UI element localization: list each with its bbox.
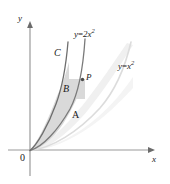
curve-c-label: C: [54, 48, 61, 58]
parabola-regions-figure: y x 0 C y=2x2 y=x2 B A P: [0, 0, 170, 184]
origin-label: 0: [20, 153, 25, 163]
curve-2x-squared-label-coef: 2x: [83, 29, 92, 39]
point-p-label: P: [86, 73, 92, 82]
y-axis-label: y: [18, 14, 22, 23]
y-axis-arrow-icon: [27, 21, 33, 28]
curve-2x-squared-label-exponent: 2: [92, 27, 95, 34]
point-p-marker: [81, 78, 84, 81]
x-axis-arrow-icon: [148, 147, 155, 153]
region-b-label: B: [63, 84, 69, 94]
region-a-label: A: [72, 110, 79, 120]
curve-x-squared-label: y=x2: [118, 60, 134, 71]
curve-2x-squared-label: y=2x2: [74, 28, 95, 39]
x-axis-label: x: [152, 155, 156, 164]
curve-x-squared-label-exponent: 2: [131, 59, 134, 66]
